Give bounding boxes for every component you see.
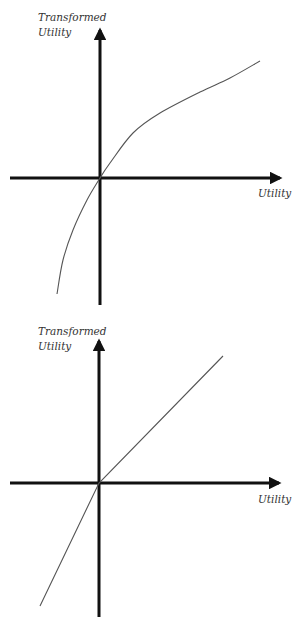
top-ylabel-line2: Utility xyxy=(38,26,72,38)
top-chart: Transformed Utility Utility xyxy=(10,11,292,305)
bottom-chart: Transformed Utility Utility xyxy=(10,325,292,617)
bottom-ylabel-line2: Utility xyxy=(38,340,72,352)
bottom-xlabel: Utility xyxy=(258,493,292,505)
top-xlabel: Utility xyxy=(258,187,292,199)
bottom-kinked-line xyxy=(40,356,223,606)
figure-canvas: Transformed Utility Utility Transformed … xyxy=(0,0,304,630)
top-ylabel-line1: Transformed xyxy=(38,11,107,23)
bottom-ylabel-line1: Transformed xyxy=(38,325,107,337)
